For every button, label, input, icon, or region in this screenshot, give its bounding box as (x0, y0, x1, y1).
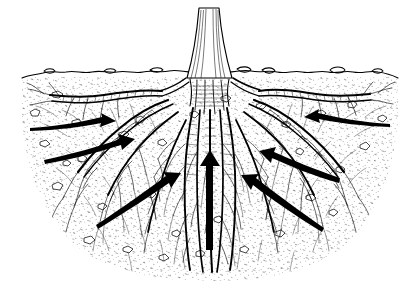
root-system-figure: Tree Root System in Soil — Cross Section… (0, 0, 420, 284)
root-system-illustration (0, 0, 420, 284)
